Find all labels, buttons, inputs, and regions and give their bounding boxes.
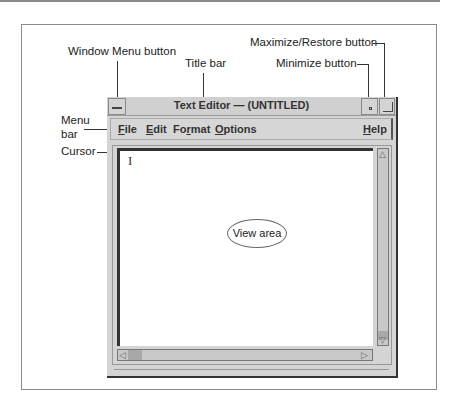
menu-format[interactable]: Format <box>173 123 210 135</box>
view-area-callout: View area <box>227 219 287 248</box>
menu-file-rest: ile <box>125 123 137 135</box>
menu-file[interactable]: File <box>118 123 137 135</box>
minimize-button[interactable] <box>361 98 378 115</box>
callout-cursor: Cursor <box>61 145 96 157</box>
horizontal-scroll-thumb[interactable] <box>128 350 142 360</box>
vertical-scrollbar[interactable]: △ ▽ <box>377 148 389 346</box>
menu-help-mnemonic: H <box>363 123 371 135</box>
scroll-right-arrow-icon[interactable]: ▷ <box>361 350 368 360</box>
scroll-left-arrow-icon[interactable]: ◁ <box>119 350 126 360</box>
menu-options[interactable]: Options <box>215 123 257 135</box>
callout-window-menu-button: Window Menu button <box>68 45 176 57</box>
view-frame: I △ ▽ ◁ ▷ <box>112 145 392 365</box>
leader-minimize-v <box>368 64 369 99</box>
view-area-label: View area <box>228 227 286 239</box>
callout-minimize: Minimize button <box>276 57 357 69</box>
title-bar[interactable]: Text Editor — (UNTITLED) <box>107 97 396 116</box>
callout-title-bar: Title bar <box>185 57 226 69</box>
menu-file-mnemonic: F <box>118 123 125 135</box>
scroll-up-arrow-icon[interactable]: △ <box>379 149 386 159</box>
window-title: Text Editor — (UNTITLED) <box>127 99 356 111</box>
callout-maximize-restore: Maximize/Restore button <box>250 36 377 48</box>
callout-menu-bar: Menu bar <box>61 113 90 141</box>
menu-options-mnemonic: O <box>215 123 224 135</box>
maximize-icon <box>383 102 393 112</box>
horizontal-scrollbar[interactable]: ◁ ▷ <box>117 349 373 361</box>
leader-minimize-h <box>357 64 368 65</box>
view-area[interactable]: I <box>117 148 373 346</box>
maximize-restore-button[interactable] <box>379 98 395 115</box>
scroll-down-arrow-icon[interactable]: ▽ <box>379 335 386 345</box>
leader-window-menu <box>117 61 118 99</box>
window-bottom-border[interactable] <box>114 369 389 374</box>
menu-options-rest: ptions <box>224 123 257 135</box>
minimize-icon <box>369 107 372 110</box>
menu-edit-rest: dit <box>153 123 166 135</box>
leader-title-bar <box>203 73 204 98</box>
menu-format-prefix: Fo <box>173 123 186 135</box>
menu-format-rest: mat <box>191 123 211 135</box>
window-menu-button[interactable] <box>108 98 126 115</box>
menu-edit[interactable]: Edit <box>146 123 167 135</box>
leader-maximize-v <box>384 43 385 99</box>
text-cursor-icon: I <box>128 153 132 169</box>
menu-help-rest: elp <box>371 123 387 135</box>
top-rule <box>0 0 440 2</box>
leader-maximize-h <box>373 43 384 44</box>
callout-menu-bar-line1: Menu <box>61 113 90 127</box>
menu-help[interactable]: Help <box>363 123 387 135</box>
window-menu-icon <box>112 107 122 109</box>
menu-bar: File Edit Format Options Help <box>110 118 393 140</box>
